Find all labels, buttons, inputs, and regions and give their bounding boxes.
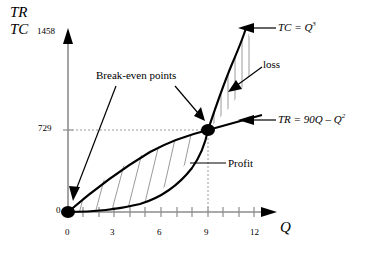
y-axis-title-tr: TR — [10, 5, 28, 20]
annotation-tr-equation: TR = 90Q – Q2 — [278, 113, 345, 125]
y-tick-label-0: 0 — [56, 206, 61, 215]
tr-equation-base: TR = 90Q – Q — [278, 113, 342, 125]
x-tick-label-6: 6 — [157, 228, 162, 237]
x-axis-title: Q — [280, 220, 291, 235]
tc-curve — [68, 28, 246, 212]
x-tick-label-3: 3 — [110, 228, 115, 237]
annotation-leaders — [69, 23, 276, 201]
tc-equation-base: TC = Q — [278, 21, 312, 33]
breakeven-point-origin — [61, 206, 75, 218]
y-axis — [63, 28, 73, 212]
x-tick-label-0: 0 — [65, 228, 70, 237]
x-tick-label-9: 9 — [204, 228, 209, 237]
annotation-breakeven: Break-even points — [96, 70, 176, 81]
tc-equation-exponent: 3 — [312, 20, 316, 28]
annotation-tc-equation: TC = Q3 — [278, 21, 316, 33]
y-tick-label-1458: 1458 — [37, 27, 55, 36]
breakeven-point-q9 — [201, 124, 215, 136]
loss-hatching — [214, 0, 249, 264]
y-tick-label-729: 729 — [38, 124, 52, 133]
tr-equation-exponent: 2 — [342, 112, 346, 120]
guide-lines — [68, 130, 208, 212]
annotation-loss: loss — [263, 59, 280, 70]
chart-canvas — [0, 0, 371, 264]
y-axis-title-tc: TC — [10, 22, 28, 37]
annotation-profit: Profit — [228, 158, 253, 169]
x-tick-label-12: 12 — [250, 228, 259, 237]
profit-hatching — [72, 120, 224, 240]
x-axis — [68, 207, 277, 217]
